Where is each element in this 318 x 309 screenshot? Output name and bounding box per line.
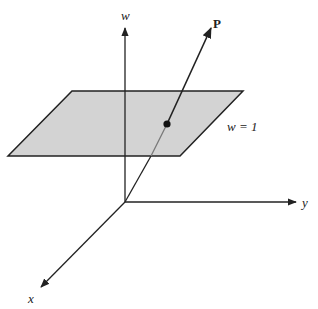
plane-label: w = 1 xyxy=(227,119,257,134)
ray-lower-segment xyxy=(125,156,151,202)
intersection-point xyxy=(163,120,170,127)
diagram-svg: w P w = 1 y x xyxy=(0,0,318,309)
y-axis-label: y xyxy=(300,195,308,210)
x-axis xyxy=(41,202,125,287)
w-axis-label: w xyxy=(121,8,130,23)
x-axis-label: x xyxy=(27,291,34,306)
homogeneous-plane-diagram: w P w = 1 y x xyxy=(0,0,318,309)
point-p-label: P xyxy=(213,16,221,31)
